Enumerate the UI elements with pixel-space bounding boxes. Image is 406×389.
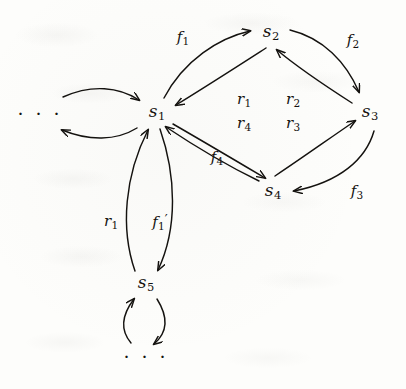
node-ellipsis-bottom: · · · [123,347,168,366]
node-s4-base: s [265,180,274,200]
edge-label-f1-prime-subscript: 1 [158,220,165,232]
edge-label-f1-prime-base: f [152,213,158,231]
edge-label-f3-subscript: 3 [357,189,364,201]
edge-s1-to-dots [62,128,137,138]
edge-label-r2-center: r2 [286,92,300,108]
state-transition-diagram-figure: · · · s1 s2 s3 s4 s5 · · · f1 f2 f3 f4 r… [0,0,406,389]
edge-label-f2: f2 [347,33,360,49]
node-s3: s3 [362,103,378,123]
node-s2-base: s [263,21,272,41]
edge-label-f2-base: f [347,31,353,49]
node-s5-base: s [138,272,147,292]
edge-s5-to-s1 [126,130,148,271]
edge-label-f1: f1 [177,30,190,46]
edge-label-f4: f4 [211,150,224,166]
node-s3-base: s [362,101,371,121]
edge-label-r1-center-subscript: 1 [244,97,251,109]
edge-s5-to-dots [154,299,165,344]
node-s2-subscript: 2 [272,29,279,43]
edge-s2-to-s1 [176,48,266,105]
node-s1: s1 [149,103,165,123]
edge-label-f2-subscript: 2 [353,38,360,50]
node-s3-subscript: 3 [371,109,378,123]
edge-label-r1-center: r1 [237,92,251,108]
node-s5-subscript: 5 [147,280,154,294]
edge-label-r4-center-subscript: 4 [244,121,251,133]
edge-label-r4-center: r4 [237,116,251,132]
edge-label-r1-lower-subscript: 1 [111,219,118,231]
edge-dots-to-s1 [63,89,139,100]
edge-label-f1-prime-mark: ′ [165,212,168,227]
edge-label-f4-subscript: 4 [217,155,224,167]
edge-label-f3: f3 [351,184,364,200]
node-s5: s5 [138,274,154,294]
edge-label-r3-center-subscript: 3 [293,121,300,133]
node-s1-base: s [149,101,158,121]
edge-label-f1-prime: f1′ [152,213,168,231]
edge-label-r2-center-subscript: 2 [293,97,300,109]
node-s4-subscript: 4 [274,188,281,202]
edge-label-r1-lower: r1 [104,214,118,230]
edge-label-f4-base: f [211,148,217,166]
edge-s1-to-s5 [158,129,173,270]
node-s1-subscript: 1 [158,109,165,123]
edge-dots-to-s5 [123,299,134,343]
edge-label-f1-base: f [177,28,183,46]
node-ellipsis-left: · · · [17,104,62,123]
edge-label-f3-base: f [351,182,357,200]
graph-edges-canvas [0,0,406,389]
edge-s3-to-s4 [294,131,374,191]
node-s2: s2 [263,23,279,43]
node-s4: s4 [265,182,281,202]
edge-label-r3-center: r3 [286,116,300,132]
edge-label-f1-subscript: 1 [183,35,190,47]
